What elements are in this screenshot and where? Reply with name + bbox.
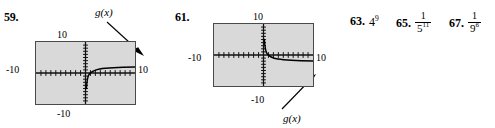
answer-key-strip: 59. g(x) 10 -10 10 -10 xyxy=(0,0,495,128)
function-label-61: g(x) xyxy=(283,112,301,124)
answer-65: 65. 1 511 xyxy=(396,12,431,35)
fraction-67: 1 96 xyxy=(468,11,481,34)
answer-63: 63. 49 xyxy=(350,14,379,29)
exercise-number-65: 65. xyxy=(396,16,411,31)
plot-area-59 xyxy=(36,42,135,104)
y-min-label-59: -10 xyxy=(57,108,70,119)
function-label-59: g(x) xyxy=(95,6,113,18)
fraction-67-numerator: 1 xyxy=(470,11,479,22)
fraction-65-denominator: 511 xyxy=(415,23,431,35)
graph-screen-59 xyxy=(35,41,136,105)
y-min-label-61: -10 xyxy=(251,94,264,105)
graph-screen-61 xyxy=(213,23,314,87)
fraction-65-numerator: 1 xyxy=(419,11,428,22)
exercise-number-59: 59. xyxy=(4,10,18,25)
x-max-label-61: 10 xyxy=(316,52,326,63)
plot-area-61 xyxy=(214,24,313,86)
x-min-label-61: -10 xyxy=(188,52,201,63)
fraction-65: 1 511 xyxy=(415,11,431,34)
answer-value-63: 49 xyxy=(369,16,379,28)
x-min-label-59: -10 xyxy=(6,64,19,75)
y-max-label-61: 10 xyxy=(253,11,263,22)
answer-63-exponent: 9 xyxy=(375,15,379,23)
fraction-67-denominator: 96 xyxy=(468,23,481,35)
answer-value-67: 1 96 xyxy=(468,12,481,35)
answer-value-65: 1 511 xyxy=(415,12,431,35)
x-max-label-59: 10 xyxy=(138,64,148,75)
exercise-number-67: 67. xyxy=(449,16,464,31)
fraction-67-denominator-exponent: 6 xyxy=(476,22,480,29)
exercise-number-61: 61. xyxy=(175,10,189,25)
answer-67: 67. 1 96 xyxy=(449,12,481,35)
y-max-label-59: 10 xyxy=(57,29,67,40)
exercise-number-63: 63. xyxy=(350,14,365,29)
fraction-65-denominator-exponent: 11 xyxy=(423,22,430,29)
